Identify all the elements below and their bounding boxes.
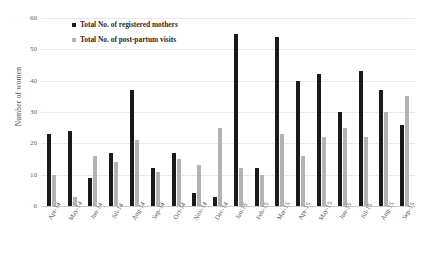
- bar-group: [62, 18, 83, 206]
- x-tick-cell: Nov-14: [186, 206, 207, 256]
- bar: [400, 125, 404, 206]
- bar: [384, 112, 388, 206]
- x-tick-cell: Sep-14: [145, 206, 166, 256]
- y-axis-tick-label: 60: [30, 14, 37, 22]
- x-tick-cell: Oct-14: [166, 206, 187, 256]
- x-tick-cell: Jan-15: [228, 206, 249, 256]
- bar: [301, 156, 305, 206]
- bar: [88, 178, 92, 206]
- bar-group: [332, 18, 353, 206]
- bar: [338, 112, 342, 206]
- x-tick-cell: Mar-15: [270, 206, 291, 256]
- bar: [275, 37, 279, 206]
- x-tick-cell: May-15: [311, 206, 332, 256]
- bar: [317, 74, 321, 206]
- bar: [322, 137, 326, 206]
- bar: [177, 159, 181, 206]
- legend-item[interactable]: Total No. of post-partum visits: [72, 35, 178, 44]
- bar-group: [41, 18, 62, 206]
- bar: [234, 34, 238, 206]
- x-tick-cell: Dec-14: [207, 206, 228, 256]
- y-axis-tick-label: 10: [30, 171, 37, 179]
- legend-swatch-icon: [72, 23, 76, 27]
- bar: [130, 90, 134, 206]
- bar: [255, 168, 259, 206]
- bar: [364, 137, 368, 206]
- legend-item[interactable]: Total No. of registered mothers: [72, 20, 178, 29]
- bar: [405, 96, 409, 206]
- bar: [172, 153, 176, 206]
- y-axis-title: Number of women: [14, 47, 23, 147]
- bar-group: [207, 18, 228, 206]
- bar-group: [290, 18, 311, 206]
- bar: [280, 134, 284, 206]
- legend-swatch-icon: [72, 38, 76, 42]
- x-tick-cell: Aug-15: [374, 206, 395, 256]
- bar-group: [186, 18, 207, 206]
- y-axis-tick-label: 30: [30, 108, 37, 116]
- bar-group: [103, 18, 124, 206]
- bar-chart: Number of women 0102030405060 Apr-14May-…: [0, 0, 423, 256]
- bar: [218, 128, 222, 206]
- bar-group: [311, 18, 332, 206]
- bar-group: [270, 18, 291, 206]
- bar-group: [374, 18, 395, 206]
- chart-legend: Total No. of registered mothersTotal No.…: [72, 20, 178, 44]
- bar: [151, 168, 155, 206]
- legend-label: Total No. of post-partum visits: [80, 35, 176, 44]
- bar: [359, 71, 363, 206]
- bar: [109, 153, 113, 206]
- bar-groups: [41, 18, 415, 206]
- x-tick-cell: Apr-15: [290, 206, 311, 256]
- x-tick-cell: Feb-15: [249, 206, 270, 256]
- bar-group: [228, 18, 249, 206]
- bar-group: [394, 18, 415, 206]
- y-axis-tick-label: 20: [30, 139, 37, 147]
- bar: [213, 197, 217, 206]
- bar-group: [145, 18, 166, 206]
- x-tick-cell: Apr-14: [41, 206, 62, 256]
- bar: [93, 156, 97, 206]
- bar-group: [249, 18, 270, 206]
- x-tick-cell: Aug-14: [124, 206, 145, 256]
- bar: [296, 81, 300, 206]
- bar: [114, 162, 118, 206]
- x-tick-cell: Jun-14: [83, 206, 104, 256]
- y-axis-tick-label: 40: [30, 77, 37, 85]
- bar: [68, 131, 72, 206]
- bar-group: [83, 18, 104, 206]
- y-axis-tick-label: 0: [34, 202, 38, 210]
- bar: [379, 90, 383, 206]
- bar: [192, 193, 196, 206]
- bar-group: [353, 18, 374, 206]
- bar: [47, 134, 51, 206]
- bar-group: [166, 18, 187, 206]
- x-tick-cell: May-14: [62, 206, 83, 256]
- bar: [343, 128, 347, 206]
- bar-group: [124, 18, 145, 206]
- legend-label: Total No. of registered mothers: [80, 20, 178, 29]
- x-tick-cell: Jul-14: [103, 206, 124, 256]
- x-tick-cell: Jul-15: [353, 206, 374, 256]
- plot-area: 0102030405060: [41, 18, 415, 206]
- y-axis-tick-label: 50: [30, 45, 37, 53]
- x-tick-cell: Jun-15: [332, 206, 353, 256]
- bar: [135, 140, 139, 206]
- x-tick-cell: Sep-15: [394, 206, 415, 256]
- x-axis-tick-labels: Apr-14May-14Jun-14Jul-14Aug-14Sep-14Oct-…: [41, 206, 415, 256]
